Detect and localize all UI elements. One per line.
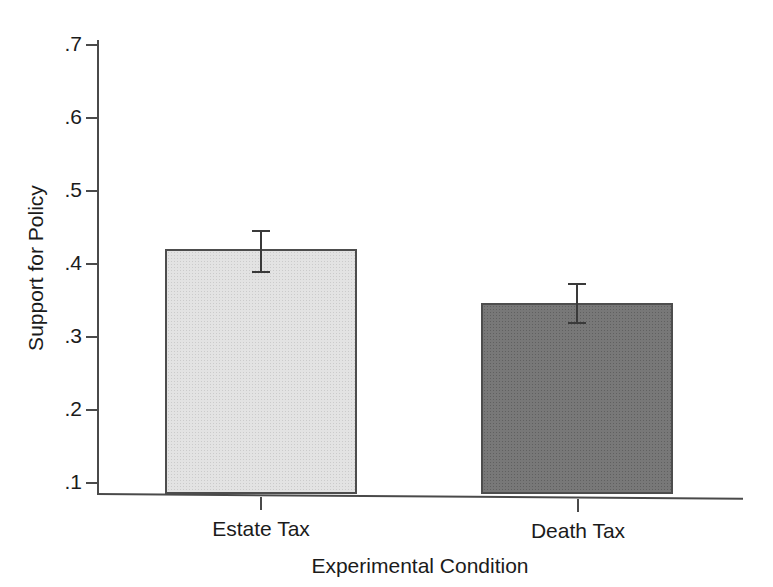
y-tick-mark-1	[86, 482, 98, 484]
x-axis-line	[97, 493, 743, 500]
y-tick-label-wrap-6: .6	[30, 106, 82, 128]
x-tick-mark-death-tax	[577, 499, 579, 512]
error-bar-stem-death-tax	[576, 284, 578, 323]
x-tick-label-estate-tax: Estate Tax	[146, 518, 376, 539]
y-tick-label-wrap-2: .2	[30, 398, 82, 420]
error-bar-cap-lower-death-tax	[568, 322, 586, 324]
y-tick-mark-6	[86, 117, 98, 119]
y-tick-label-7: .7	[38, 33, 82, 54]
x-tick-mark-estate-tax	[260, 497, 262, 510]
error-bar-cap-upper-death-tax	[568, 283, 586, 285]
y-tick-mark-2	[86, 409, 98, 411]
y-tick-label-wrap-1: .1	[30, 471, 82, 493]
error-bar-cap-upper-estate-tax	[252, 230, 270, 232]
bar-death-tax	[481, 303, 673, 494]
bar-chart-figure: .7 .6 .5 .4 .3 .2 .1 Support for Policy …	[0, 0, 773, 587]
y-tick-mark-4	[86, 263, 98, 265]
y-tick-label-2: .2	[38, 398, 82, 419]
y-axis-title: Support for Policy	[24, 158, 48, 378]
bar-estate-tax	[165, 249, 357, 494]
y-axis-line	[97, 40, 99, 495]
x-tick-label-death-tax: Death Tax	[463, 520, 693, 541]
y-tick-label-wrap-7: .7	[30, 33, 82, 55]
error-bar-cap-lower-estate-tax	[252, 271, 270, 273]
y-tick-label-1: .1	[38, 471, 82, 492]
y-tick-mark-5	[86, 190, 98, 192]
x-axis-title: Experimental Condition	[97, 554, 743, 578]
error-bar-stem-estate-tax	[260, 231, 262, 272]
y-tick-label-6: .6	[38, 106, 82, 127]
y-tick-mark-3	[86, 336, 98, 338]
y-tick-mark-7	[86, 44, 98, 46]
